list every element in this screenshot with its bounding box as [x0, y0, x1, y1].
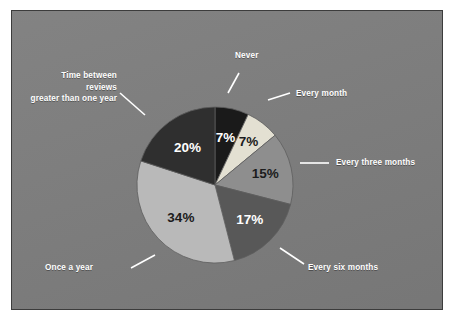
pie-label-time-between-reviews-line2: greater than one year — [31, 94, 117, 103]
leader-line-every-six-months — [280, 248, 304, 264]
pie-label-every-three-months: Every three months — [336, 157, 415, 169]
pie-label-every-month-text: Every month — [296, 89, 347, 98]
leader-line-time-between-reviews — [120, 93, 145, 115]
pie-label-every-three-months-text: Every three months — [336, 158, 415, 167]
pie-label-once-a-year-text: Once a year — [45, 263, 93, 272]
leader-line-never — [228, 73, 239, 93]
leader-line-once-a-year — [131, 255, 155, 268]
pie-value-label-once-a-year: 34% — [167, 210, 194, 225]
pie-label-every-six-months-text: Every six months — [308, 263, 378, 272]
pie-label-never: Never — [235, 50, 259, 62]
pie-label-once-a-year: Once a year — [45, 262, 93, 274]
pie-value-label-every-month: 7% — [239, 134, 259, 149]
pie-label-every-six-months: Every six months — [308, 262, 378, 274]
pie-value-label-every-three-months: 15% — [252, 166, 279, 181]
pie-value-label-never: 7% — [216, 130, 236, 145]
pie-label-time-between-reviews: Time between reviews greater than one ye… — [29, 70, 117, 105]
pie-label-every-month: Every month — [296, 88, 347, 100]
pie-value-label-every-six-months: 17% — [236, 212, 263, 227]
pie-label-time-between-reviews-line1: Time between reviews — [61, 71, 117, 92]
pie-value-label-time-between-reviews-greater-than-one-year: 20% — [174, 140, 201, 155]
pie-label-never-text: Never — [235, 51, 259, 60]
leader-line-every-month — [268, 93, 290, 100]
chart-page: 7%7%15%17%34%20% Never Every month Every… — [0, 0, 457, 327]
